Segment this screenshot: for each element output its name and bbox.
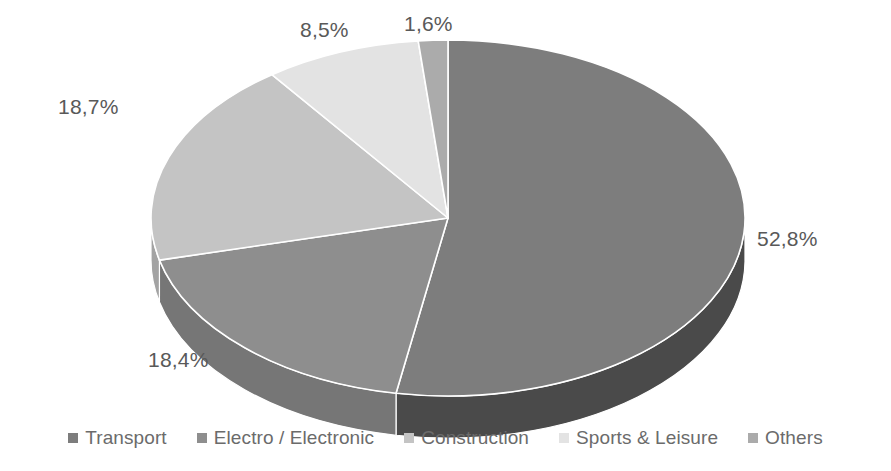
legend-item-label: Construction	[421, 427, 529, 449]
slice-label-electro: 18,4%	[148, 348, 209, 372]
slice-label-transport: 52,8%	[757, 227, 818, 251]
legend-item-label: Electro / Electronic	[214, 427, 374, 449]
legend-swatch-icon	[559, 433, 569, 443]
legend-item[interactable]: Electro / Electronic	[197, 427, 374, 449]
pie-top-faces	[151, 40, 745, 396]
legend-item-label: Others	[765, 427, 823, 449]
slice-label-others: 1,6%	[404, 12, 453, 36]
legend-swatch-icon	[197, 433, 207, 443]
legend-item[interactable]: Construction	[404, 427, 529, 449]
legend-item-label: Transport	[85, 427, 167, 449]
pie-chart: 8,5% 1,6% 18,7% 52,8% 18,4% TransportEle…	[0, 0, 891, 471]
slice-label-construction: 18,7%	[58, 95, 119, 119]
legend-swatch-icon	[68, 433, 78, 443]
legend-item[interactable]: Transport	[68, 427, 167, 449]
legend-swatch-icon	[404, 433, 414, 443]
slice-label-sports: 8,5%	[300, 18, 349, 42]
legend-swatch-icon	[748, 433, 758, 443]
chart-legend: TransportElectro / ElectronicConstructio…	[0, 418, 891, 458]
legend-item-label: Sports & Leisure	[576, 427, 718, 449]
legend-item[interactable]: Others	[748, 427, 823, 449]
legend-item[interactable]: Sports & Leisure	[559, 427, 718, 449]
